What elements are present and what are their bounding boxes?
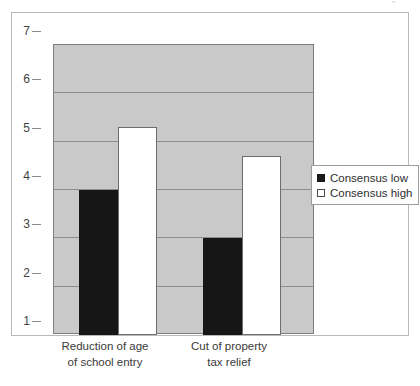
category-label-line: Reduction of age (40, 338, 170, 354)
empty-square-icon (317, 189, 325, 197)
y-axis-tick (32, 321, 41, 322)
y-axis-tick-label: 3 (6, 218, 30, 230)
legend-item-consensus-low: Consensus low (317, 170, 412, 185)
legend-label: Consensus low (330, 172, 408, 184)
gridline (54, 141, 313, 142)
y-axis-tick-label: 1 (6, 315, 30, 327)
legend-label: Consensus high (330, 187, 412, 199)
scan-artifact-mark: ˜ (392, 2, 399, 8)
bar-consensus-high (242, 156, 281, 335)
y-axis-tick-label: 4 (6, 170, 30, 182)
y-axis-tick (32, 128, 41, 129)
bar-consensus-high (118, 127, 157, 335)
y-axis-tick (32, 224, 41, 225)
y-axis-labels: 1234567 (0, 0, 30, 386)
plot-area (53, 44, 314, 334)
y-axis-line (53, 44, 54, 334)
gridline (54, 92, 313, 93)
y-axis-tick (32, 31, 41, 32)
y-axis-tick-label: 6 (6, 73, 30, 85)
y-axis-tick (32, 176, 41, 177)
category-label-line: tax relief (164, 354, 294, 370)
category-label: Reduction of ageof school entry (40, 338, 170, 370)
legend-item-consensus-high: Consensus high (317, 185, 412, 200)
bar-consensus-low (79, 190, 118, 335)
y-axis-tick-label: 5 (6, 122, 30, 134)
bar-consensus-low (203, 238, 242, 335)
category-label-line: Cut of property (164, 338, 294, 354)
filled-square-icon (317, 174, 325, 182)
y-axis-tick-label: 2 (6, 267, 30, 279)
chart-legend: Consensus low Consensus high (311, 165, 419, 205)
y-axis-tick-label: 7 (6, 25, 30, 37)
y-axis-tick (32, 273, 41, 274)
category-label: Cut of propertytax relief (164, 338, 294, 370)
y-axis-tick (32, 79, 41, 80)
category-label-line: of school entry (40, 354, 170, 370)
